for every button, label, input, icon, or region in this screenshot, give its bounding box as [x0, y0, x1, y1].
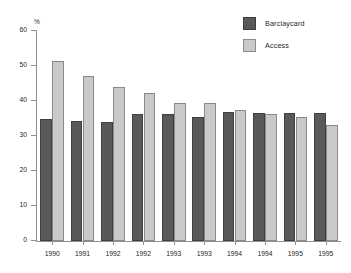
x-tick-mark [52, 241, 53, 245]
bar-barclaycard-3 [132, 114, 144, 241]
bar-barclaycard-7 [253, 113, 265, 241]
x-tick-mark [235, 241, 236, 245]
bar-group [40, 31, 64, 241]
y-axis-unit-label: % [34, 18, 40, 25]
x-tick-label: 1992 [136, 250, 151, 257]
bar-group [101, 31, 125, 241]
bar-barclaycard-2 [101, 122, 113, 241]
bar-access-1 [83, 76, 95, 241]
y-tick-label: 30 [19, 131, 27, 138]
x-tick-label: 1993 [197, 250, 212, 257]
x-tick-label: 1994 [257, 250, 272, 257]
bar-group [314, 31, 338, 241]
legend-swatch-barclaycard [243, 17, 256, 30]
bar-group [223, 31, 247, 241]
legend-label-barclaycard: Barclaycard [265, 19, 305, 28]
bar-access-5 [204, 103, 216, 241]
bar-access-7 [265, 114, 277, 241]
bar-access-6 [235, 110, 247, 241]
x-tick-mark [265, 241, 266, 245]
x-tick-mark [143, 241, 144, 245]
y-tick-label: 40 [19, 96, 27, 103]
bar-access-4 [174, 103, 186, 241]
x-tick-mark [204, 241, 205, 245]
x-tick-mark [83, 241, 84, 245]
y-tick-label: 20 [19, 166, 27, 173]
x-tick-label: 1990 [45, 250, 60, 257]
y-tick-label: 10 [19, 201, 27, 208]
bar-barclaycard-1 [71, 121, 83, 241]
x-tick-label: 1991 [75, 250, 90, 257]
bar-access-3 [144, 93, 156, 241]
bar-group [284, 31, 308, 241]
x-tick-mark [295, 241, 296, 245]
y-tick-label: 60 [19, 26, 27, 33]
bar-barclaycard-5 [192, 117, 204, 241]
bar-chart: Barclaycard Access % 0102030405060 19901… [0, 0, 351, 273]
bar-barclaycard-4 [162, 114, 174, 241]
bar-barclaycard-8 [284, 113, 296, 241]
y-tick-label: 0 [23, 236, 27, 243]
bar-group [253, 31, 277, 241]
x-tick-label: 1993 [166, 250, 181, 257]
plot-area [37, 31, 341, 241]
bar-group [132, 31, 156, 241]
bar-barclaycard-6 [223, 112, 235, 241]
x-tick-label: 1992 [105, 250, 120, 257]
bar-access-0 [52, 61, 64, 241]
bar-access-8 [296, 117, 308, 241]
bar-group [162, 31, 186, 241]
x-tick-label: 1995 [288, 250, 303, 257]
bar-access-9 [326, 125, 338, 241]
bar-barclaycard-0 [40, 119, 52, 242]
x-tick-mark [113, 241, 114, 245]
x-tick-mark [174, 241, 175, 245]
y-tick-label: 50 [19, 61, 27, 68]
bar-group [71, 31, 95, 241]
x-tick-label: 1995 [318, 250, 333, 257]
x-tick-mark [326, 241, 327, 245]
bar-access-2 [113, 87, 125, 241]
bar-group [192, 31, 216, 241]
bar-barclaycard-9 [314, 113, 326, 241]
x-tick-label: 1994 [227, 250, 242, 257]
